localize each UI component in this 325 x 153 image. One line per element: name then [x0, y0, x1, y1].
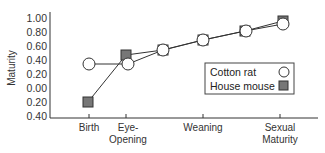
- y-tick-label: 0.00: [27, 82, 48, 94]
- x-ticks: [89, 114, 280, 118]
- cotton-rat-point: [83, 58, 95, 70]
- y-tick-label: 0.40: [27, 54, 48, 66]
- y-tick-label: 0.40: [27, 110, 48, 122]
- x-tick-label-eye-opening-1: Eye-: [118, 122, 139, 133]
- x-tick-label-eye-opening-2: Opening: [109, 134, 147, 145]
- y-tick-label: 0.60: [27, 40, 48, 52]
- maturity-chart: Maturity 1.00 0.80 0.60 0.40 0.20 0.00 0…: [0, 0, 325, 153]
- legend-square-icon: [279, 81, 288, 90]
- x-tick-label-weaning: Weaning: [183, 122, 222, 133]
- x-tick-label-sexual-1: Sexual: [265, 122, 296, 133]
- house-mouse-point: [83, 97, 93, 107]
- cotton-rat-point: [197, 34, 209, 46]
- legend: Cotton rat House mouse: [205, 63, 294, 94]
- cotton-rat-point: [157, 44, 169, 56]
- cotton-rat-point: [277, 18, 289, 30]
- y-axis-label: Maturity: [6, 50, 17, 86]
- y-tick-label: 1.00: [27, 12, 48, 24]
- x-tick-label-birth: Birth: [79, 122, 100, 133]
- cotton-rat-line: [89, 24, 283, 64]
- x-tick-labels: Birth Eye- Opening Weaning Sexual Maturi…: [79, 122, 298, 145]
- y-tick-label: 0.20: [27, 96, 48, 108]
- y-tick-label: 0.20: [27, 68, 48, 80]
- cotton-rat-point: [122, 58, 134, 70]
- legend-label-house-mouse: House mouse: [210, 80, 275, 92]
- y-tick-labels: 1.00 0.80 0.60 0.40 0.20 0.00 0.20 0.40: [27, 12, 48, 122]
- legend-label-cotton-rat: Cotton rat: [210, 66, 256, 78]
- cotton-rat-point: [240, 25, 252, 37]
- x-tick-label-sexual-2: Maturity: [262, 134, 298, 145]
- legend-circle-icon: [279, 67, 289, 77]
- y-tick-label: 0.80: [27, 26, 48, 38]
